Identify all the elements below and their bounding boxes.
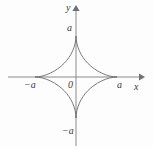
y-negative-tick-label: −a (62, 126, 74, 136)
x-axis-arrowhead (139, 73, 145, 80)
astroid-figure: y x a −a a −a 0 (0, 0, 153, 149)
plot-canvas (0, 0, 153, 149)
x-negative-tick-label: −a (24, 80, 36, 90)
x-positive-tick-label: a (117, 80, 122, 90)
y-axis-arrowhead (72, 5, 79, 11)
origin-label: 0 (68, 80, 73, 90)
y-positive-tick-label: a (67, 23, 72, 33)
x-axis-label: x (134, 82, 138, 92)
y-axis-label: y (66, 3, 70, 13)
